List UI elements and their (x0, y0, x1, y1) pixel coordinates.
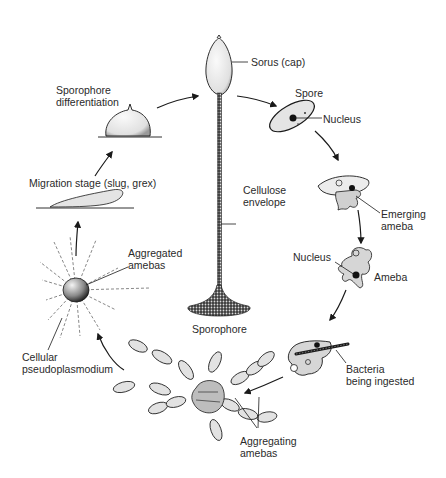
label-migration-stage: Migration stage (slug, grex) (29, 177, 156, 189)
label-cellulose-envelope-1: Cellulose (243, 184, 286, 196)
label-emerging-ameba-2: ameba (381, 220, 413, 232)
emerging-ameba-figure (318, 176, 369, 210)
label-sporophore-differentiation-2: differentiation (56, 96, 119, 108)
label-cellulose-envelope-2: envelope (243, 196, 286, 208)
label-spore-nucleus: Nucleus (323, 113, 361, 125)
label-emerging-ameba-1: Emerging (381, 208, 426, 220)
sporophore-figure (188, 35, 250, 316)
life-cycle-diagram (0, 0, 446, 478)
label-cellular-pseudoplasmodium-1: Cellular (22, 351, 58, 363)
label-ameba-nucleus: Nucleus (293, 251, 331, 263)
label-sorus-cap: Sorus (cap) (251, 56, 305, 68)
label-aggregating-amebas-2: amebas (240, 447, 277, 459)
label-sporophore: Sporophore (192, 323, 247, 335)
migration-slug-figure (36, 189, 134, 208)
label-cellular-pseudoplasmodium-2: pseudoplasmodium (22, 363, 113, 375)
label-sporophore-differentiation-1: Sporophore (56, 84, 111, 96)
ameba-ingesting-bacteria-figure (288, 341, 348, 375)
label-ameba: Ameba (374, 271, 407, 283)
label-bacteria-ingested-1: Bacteria (346, 363, 385, 375)
spore-figure (265, 94, 319, 138)
label-spore: Spore (295, 87, 323, 99)
label-aggregating-amebas-1: Aggregating (240, 435, 297, 447)
label-aggregated-amebas-2: amebas (128, 259, 165, 271)
label-aggregated-amebas-1: Aggregated (128, 247, 182, 259)
sporophore-differentiation-figure (98, 104, 162, 137)
label-bacteria-ingested-2: being ingested (346, 375, 414, 387)
